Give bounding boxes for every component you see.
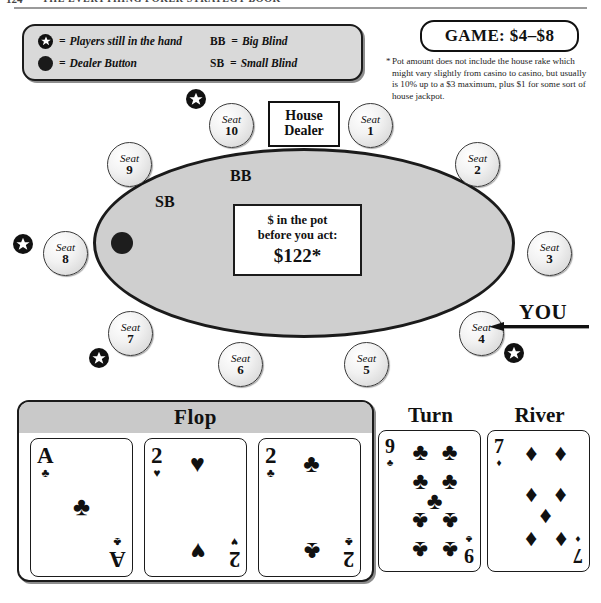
- seat-4[interactable]: Seat 4: [459, 311, 504, 356]
- seat-2[interactable]: Seat 2: [455, 142, 500, 187]
- clubs-icon: ♣: [303, 451, 319, 476]
- diamonds-icon: ♦: [555, 441, 567, 465]
- clubs-icon: ♣: [303, 538, 319, 563]
- card-pips: ♣: [31, 439, 132, 576]
- flop-label: Flop: [174, 405, 217, 430]
- card-flop-3[interactable]: 2 ♣ 2 ♣ ♣ ♣: [258, 438, 361, 577]
- card-turn[interactable]: 9 ♣ 9 ♣ ♣ ♣ ♣ ♣ ♣ ♣ ♣ ♣ ♣: [378, 430, 481, 572]
- poker-hand-diagram-page: 124 THE EVERYTHING POKER STRATEGY BOOK =…: [0, 0, 601, 603]
- legend-label-players: Players still in the hand: [70, 35, 182, 47]
- legend-abbr-bb: BB: [210, 35, 225, 47]
- star-icon-seat-10: [186, 89, 206, 109]
- you-arrow-icon: [489, 322, 589, 331]
- seat-number: 5: [363, 363, 370, 376]
- dealer-button-marker: [111, 232, 133, 254]
- legend-item-players: = Players still in the hand: [38, 32, 182, 50]
- footnote-marker: *: [386, 56, 391, 68]
- turn-label: Turn: [378, 400, 483, 430]
- game-stakes-label: GAME: $4–$8: [445, 26, 555, 46]
- seat-8[interactable]: Seat 8: [43, 231, 88, 276]
- hearts-icon: ♥: [190, 451, 205, 476]
- hearts-icon: ♥: [190, 538, 205, 563]
- seat-6[interactable]: Seat 6: [218, 342, 263, 387]
- card-pips: ♥ ♥: [145, 439, 246, 576]
- card-pips: ♣ ♣ ♣ ♣ ♣ ♣ ♣ ♣ ♣: [379, 431, 480, 571]
- diamonds-icon: ♦: [525, 482, 537, 506]
- diamonds-icon: ♦: [555, 482, 567, 506]
- diamonds-icon: ♦: [525, 528, 537, 552]
- legend-item-sb: SB = Small Blind: [210, 54, 297, 72]
- seat-3[interactable]: Seat 3: [527, 231, 572, 276]
- seat-number: 1: [367, 124, 374, 137]
- house-dealer-line-2: Dealer: [284, 124, 324, 139]
- clubs-icon: ♣: [73, 494, 90, 520]
- dealer-button-icon: [38, 56, 53, 71]
- pot-amount-value: $122*: [274, 245, 322, 267]
- seat-number: 2: [474, 163, 481, 176]
- seat-number: 6: [237, 363, 244, 376]
- game-stakes-badge: GAME: $4–$8: [420, 20, 579, 52]
- seat-number: 9: [126, 163, 133, 176]
- turn-column: Turn 9 ♣ 9 ♣ ♣ ♣ ♣ ♣ ♣ ♣ ♣ ♣ ♣: [378, 400, 483, 572]
- diamonds-icon: ♦: [555, 528, 567, 552]
- flop-panel: Flop A ♣ A ♣ ♣ 2 ♥: [17, 400, 374, 582]
- seat-number: 8: [62, 252, 69, 265]
- seat-10[interactable]: Seat 10: [209, 103, 254, 148]
- diamonds-icon: ♦: [539, 503, 551, 527]
- page-number: 124: [6, 0, 23, 5]
- legend-equals: =: [231, 35, 238, 47]
- pot-line-1: $ in the pot: [267, 213, 327, 228]
- seat-1[interactable]: Seat 1: [348, 103, 393, 148]
- card-river[interactable]: 7 ♦ 7 ♦ ♦ ♦ ♦ ♦ ♦ ♦ ♦: [487, 430, 590, 572]
- footnote-text: Pot amount does not include the house ra…: [392, 56, 586, 101]
- seat-5[interactable]: Seat 5: [344, 342, 389, 387]
- big-blind-label: BB: [230, 167, 251, 185]
- clubs-icon: ♣: [413, 538, 429, 562]
- house-dealer-box: House Dealer: [268, 101, 340, 147]
- card-flop-1[interactable]: A ♣ A ♣ ♣: [30, 438, 133, 577]
- rake-footnote: * Pot amount does not include the house …: [392, 56, 592, 103]
- star-icon-seat-4: [504, 343, 524, 363]
- legend-equals: =: [59, 57, 66, 69]
- pot-line-2: before you act:: [258, 228, 338, 243]
- clubs-icon: ♣: [442, 538, 458, 562]
- house-dealer-line-1: House: [285, 109, 322, 124]
- river-column: River 7 ♦ 7 ♦ ♦ ♦ ♦ ♦ ♦ ♦ ♦: [487, 400, 592, 572]
- legend-label-dealer: Dealer Button: [70, 57, 137, 69]
- seat-7[interactable]: Seat 7: [108, 311, 153, 356]
- clubs-icon: ♣: [442, 440, 458, 464]
- flop-header: Flop: [19, 402, 372, 433]
- legend-equals: =: [230, 57, 237, 69]
- star-icon: [38, 34, 53, 49]
- diamonds-icon: ♦: [525, 441, 537, 465]
- star-icon-seat-7: [89, 348, 109, 368]
- pot-amount-box: $ in the pot before you act: $122*: [233, 204, 362, 276]
- clubs-icon: ♣: [413, 509, 429, 533]
- legend-item-bb: BB = Big Blind: [210, 32, 288, 50]
- legend-label-sb: Small Blind: [241, 57, 298, 69]
- clubs-icon: ♣: [413, 440, 429, 464]
- card-pips: ♦ ♦ ♦ ♦ ♦ ♦ ♦: [488, 431, 589, 571]
- seat-number: 7: [127, 332, 134, 345]
- seat-9[interactable]: Seat 9: [107, 142, 152, 187]
- small-blind-label: SB: [155, 193, 175, 211]
- legend-equals: =: [59, 35, 66, 47]
- river-label: River: [487, 400, 592, 430]
- star-icon-seat-8: [13, 234, 33, 254]
- seat-number: 3: [546, 252, 553, 265]
- card-pips: ♣ ♣: [259, 439, 360, 576]
- legend-label-bb: Big Blind: [242, 35, 288, 47]
- book-title: THE EVERYTHING POKER STRATEGY BOOK: [42, 0, 281, 4]
- seat-number: 4: [478, 332, 485, 345]
- header-rule: [14, 7, 587, 9]
- clubs-icon: ♣: [442, 469, 458, 493]
- legend-box: = Players still in the hand = Dealer But…: [22, 24, 363, 81]
- seat-number: 10: [225, 124, 238, 137]
- flop-cards: A ♣ A ♣ ♣ 2 ♥ 2 ♥: [19, 436, 372, 578]
- clubs-icon: ♣: [442, 509, 458, 533]
- card-flop-2[interactable]: 2 ♥ 2 ♥ ♥ ♥: [144, 438, 247, 577]
- legend-item-dealer: = Dealer Button: [38, 54, 137, 72]
- clubs-icon: ♣: [427, 489, 443, 513]
- legend-abbr-sb: SB: [210, 57, 224, 69]
